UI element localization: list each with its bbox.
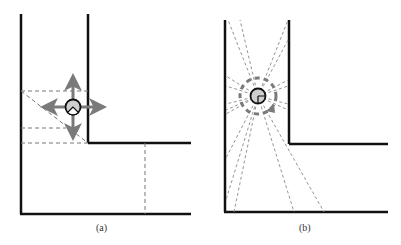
panel-a	[20, 14, 191, 214]
dashed-region-lines	[21, 91, 145, 214]
sensor-rays	[226, 20, 324, 212]
caption-a: (a)	[96, 222, 107, 233]
diagram-canvas	[0, 0, 401, 245]
robot-icon	[251, 89, 266, 104]
walls	[224, 20, 388, 212]
walls	[20, 14, 191, 214]
caption-b: (b)	[299, 222, 311, 233]
robot-icon	[66, 100, 81, 115]
panel-b	[224, 20, 388, 212]
